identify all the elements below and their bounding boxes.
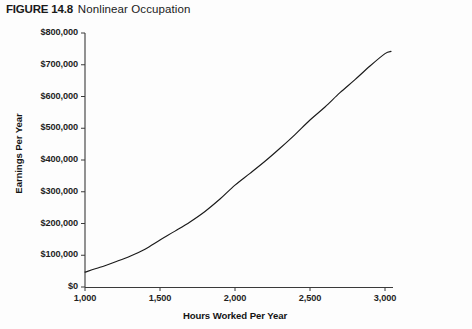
x-axis-tick-label: 1,000 <box>59 293 111 303</box>
y-axis-tick-label: $200,000 <box>0 218 78 228</box>
figure-container: FIGURE 14.8Nonlinear Occupation $0$100,0… <box>0 0 472 329</box>
y-axis-tick-label: $800,000 <box>0 27 78 37</box>
y-axis-title: Earnings Per Year <box>13 94 24 214</box>
plot-area: $0$100,000$200,000$300,000$400,000$500,0… <box>0 0 472 329</box>
x-axis-tick-label: 2,000 <box>209 293 261 303</box>
y-axis-tick-label: $0 <box>0 281 78 291</box>
y-axis-ticks <box>81 33 85 287</box>
x-axis-tick-label: 3,000 <box>359 293 411 303</box>
y-axis-tick-label: $100,000 <box>0 249 78 259</box>
chart-svg <box>0 0 472 329</box>
x-axis-tick-label: 1,500 <box>134 293 186 303</box>
x-axis-title: Hours Worked Per Year <box>85 310 385 321</box>
axes-group <box>85 33 393 288</box>
x-axis-tick-label: 2,500 <box>284 293 336 303</box>
earnings-curve <box>85 51 391 272</box>
y-axis-tick-label: $700,000 <box>0 59 78 69</box>
